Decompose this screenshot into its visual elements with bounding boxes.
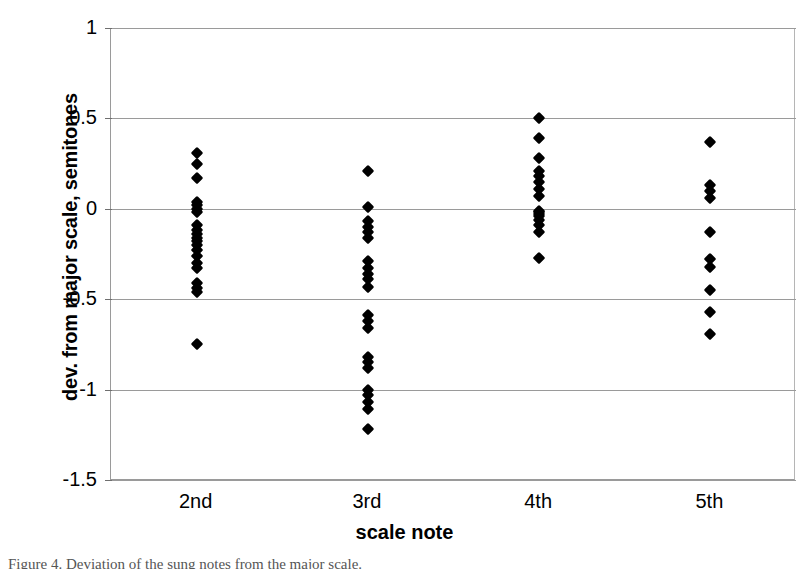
data-point	[362, 164, 375, 177]
data-point	[190, 157, 203, 170]
data-point	[190, 338, 203, 351]
gridline-y-0p5	[111, 118, 796, 119]
x-tick-label-4th: 4th	[478, 489, 598, 513]
y-tick-mark	[105, 390, 112, 391]
y-tick-label--1.5: -1.5	[37, 469, 97, 489]
y-tick-label--1: -1	[37, 379, 97, 399]
gridline-y-1	[111, 28, 796, 29]
y-tick-mark	[105, 118, 112, 119]
gridline-y-neg0p5	[111, 299, 796, 300]
y-tick-mark	[105, 480, 112, 481]
data-point	[533, 152, 546, 165]
data-point	[533, 132, 546, 145]
chart-figure: dev. from major scale, semitones 10.50-0…	[0, 0, 809, 569]
y-tick-label-0.5: 0.5	[37, 107, 97, 127]
data-point	[704, 136, 717, 149]
gridline-y-neg1	[111, 390, 796, 391]
y-tick-label--0.5: -0.5	[37, 288, 97, 308]
figure-caption: Figure 4. Deviation of the sung notes fr…	[8, 556, 708, 569]
x-tick-label-5th: 5th	[649, 489, 769, 513]
data-point	[704, 284, 717, 297]
y-tick-mark	[105, 299, 112, 300]
y-tick-mark	[105, 28, 112, 29]
data-point	[362, 201, 375, 214]
plot-area	[110, 28, 795, 480]
y-tick-label-1: 1	[37, 17, 97, 37]
data-point	[533, 112, 546, 125]
data-point	[362, 423, 375, 436]
x-tick-label-3rd: 3rd	[307, 489, 427, 513]
x-tick-label-2nd: 2nd	[136, 489, 256, 513]
gridline-y-0	[111, 209, 796, 210]
data-point	[704, 305, 717, 318]
data-point	[704, 226, 717, 239]
gridline-y-neg1p5	[111, 480, 796, 481]
data-point	[533, 251, 546, 264]
data-point	[190, 172, 203, 185]
data-point	[704, 327, 717, 340]
x-axis-title: scale note	[0, 521, 809, 544]
y-tick-label-0: 0	[37, 198, 97, 218]
y-tick-mark	[105, 209, 112, 210]
data-point	[362, 403, 375, 416]
data-point	[362, 280, 375, 293]
